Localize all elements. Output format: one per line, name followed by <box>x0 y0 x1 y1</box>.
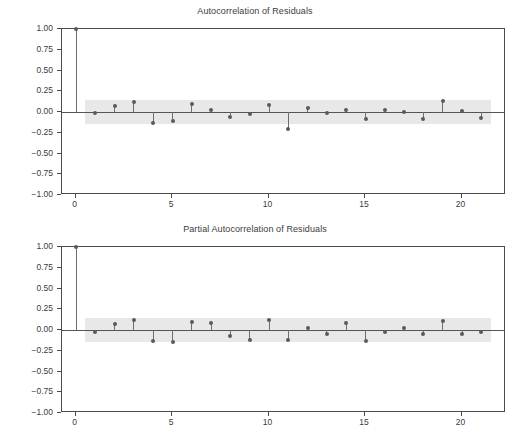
pacf-xtick-mark <box>171 412 172 416</box>
pacf-ytick-label: 0.75 <box>0 262 61 272</box>
pacf-marker <box>248 338 252 342</box>
pacf-ytick-label: −0.25 <box>0 345 61 355</box>
acf-marker <box>325 111 329 115</box>
acf-xtick-label: 15 <box>359 199 368 209</box>
pacf-zero-line <box>62 330 504 331</box>
acf-xtick-label: 20 <box>456 199 465 209</box>
acf-marker <box>132 100 136 104</box>
pacf-marker <box>113 322 117 326</box>
pacf-plot-area <box>61 246 505 412</box>
acf-zero-line <box>62 112 504 113</box>
acf-marker <box>306 106 310 110</box>
pacf-ytick-label: −0.50 <box>0 366 61 376</box>
pacf-ytick-label: 0.25 <box>0 303 61 313</box>
pacf-xtick-label: 15 <box>359 417 368 427</box>
acf-xtick-mark <box>171 194 172 198</box>
pacf-marker <box>344 321 348 325</box>
pacf-marker <box>151 339 155 343</box>
acf-title: Autocorrelation of Residuals <box>0 6 510 16</box>
correlogram-figure: Autocorrelation of Residuals 1.000.750.5… <box>0 0 510 435</box>
pacf-xtick-mark <box>268 412 269 416</box>
pacf-marker <box>132 318 136 322</box>
acf-marker <box>171 119 175 123</box>
acf-marker <box>151 121 155 125</box>
pacf-xtick-mark <box>461 412 462 416</box>
pacf-marker <box>171 340 175 344</box>
pacf-xtick-label: 5 <box>169 417 174 427</box>
acf-ytick-label: −1.00 <box>0 189 61 199</box>
pacf-ytick-mark <box>57 412 61 413</box>
acf-ytick-label: 1.00 <box>0 23 61 33</box>
acf-xtick-mark <box>75 194 76 198</box>
pacf-marker <box>441 319 445 323</box>
acf-ytick-label: −0.75 <box>0 168 61 178</box>
pacf-xtick-mark <box>364 412 365 416</box>
acf-marker <box>441 99 445 103</box>
pacf-marker <box>209 321 213 325</box>
pacf-marker <box>364 339 368 343</box>
pacf-marker <box>93 330 97 334</box>
acf-marker <box>209 108 213 112</box>
pacf-xtick-label: 0 <box>72 417 77 427</box>
pacf-marker <box>74 245 78 249</box>
pacf-marker <box>190 320 194 324</box>
acf-marker <box>74 27 78 31</box>
pacf-ytick-label: 1.00 <box>0 241 61 251</box>
pacf-stem <box>76 247 77 330</box>
acf-stem <box>76 29 77 112</box>
acf-xtick-label: 5 <box>169 199 174 209</box>
pacf-ytick-label: 0.50 <box>0 283 61 293</box>
pacf-xtick-label: 10 <box>263 417 272 427</box>
acf-ytick-label: −0.50 <box>0 148 61 158</box>
pacf-xtick-mark <box>75 412 76 416</box>
acf-plot-area <box>61 28 505 194</box>
acf-ytick-mark <box>57 194 61 195</box>
acf-marker <box>286 127 290 131</box>
pacf-panel: Partial Autocorrelation of Residuals 1.0… <box>0 218 510 435</box>
acf-ytick-label: 0.25 <box>0 85 61 95</box>
acf-ytick-label: 0.00 <box>0 106 61 116</box>
acf-xtick-label: 10 <box>263 199 272 209</box>
pacf-ytick-label: 0.00 <box>0 324 61 334</box>
acf-ytick-label: 0.75 <box>0 44 61 54</box>
pacf-ytick-label: −0.75 <box>0 386 61 396</box>
acf-ytick-label: 0.50 <box>0 65 61 75</box>
acf-marker <box>190 102 194 106</box>
pacf-ytick-label: −1.00 <box>0 407 61 417</box>
acf-xtick-mark <box>364 194 365 198</box>
pacf-title: Partial Autocorrelation of Residuals <box>0 224 510 234</box>
acf-xtick-mark <box>268 194 269 198</box>
pacf-xtick-label: 20 <box>456 417 465 427</box>
acf-panel: Autocorrelation of Residuals 1.000.750.5… <box>0 0 510 217</box>
acf-xtick-mark <box>461 194 462 198</box>
acf-xtick-label: 0 <box>72 199 77 209</box>
acf-marker <box>113 104 117 108</box>
acf-ytick-label: −0.25 <box>0 127 61 137</box>
acf-marker <box>267 103 271 107</box>
